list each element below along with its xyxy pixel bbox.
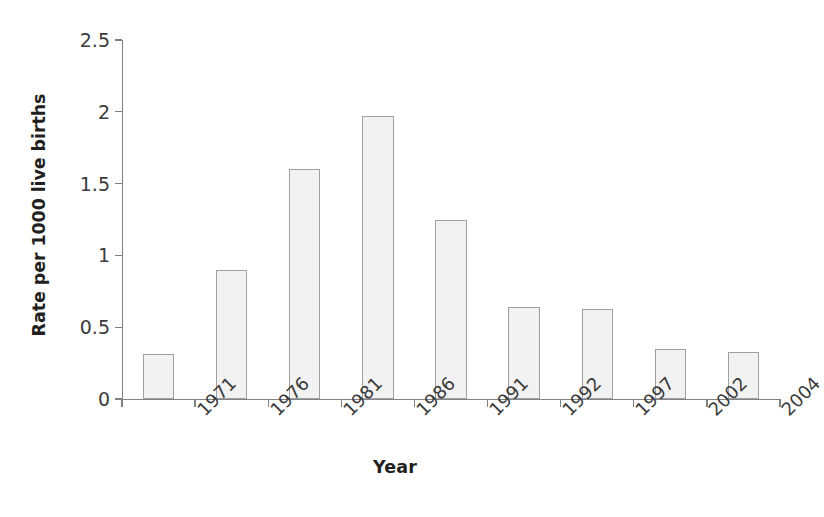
x-axis-title: Year	[0, 457, 790, 477]
y-tick-label: 0.5	[80, 318, 110, 337]
y-tick-mark	[115, 39, 122, 40]
bar	[289, 169, 320, 399]
y-tick-mark	[115, 111, 122, 112]
x-tick-mark	[121, 399, 122, 407]
x-tick-label: 2004	[779, 374, 824, 419]
y-tick-label: 1	[98, 246, 110, 265]
y-tick-label: 2.5	[80, 31, 110, 50]
bar	[143, 354, 174, 399]
y-axis-line	[122, 40, 123, 399]
y-tick-mark	[115, 327, 122, 328]
bar	[435, 220, 466, 400]
y-axis-title: Rate per 1000 live births	[16, 0, 62, 430]
y-tick-mark	[115, 255, 122, 256]
y-tick-label: 2	[98, 102, 110, 121]
y-tick-mark	[115, 183, 122, 184]
y-tick-label: 0	[98, 390, 110, 409]
plot-area: 00.511.522.5	[122, 40, 780, 399]
y-tick-label: 1.5	[80, 174, 110, 193]
bar	[362, 116, 393, 399]
